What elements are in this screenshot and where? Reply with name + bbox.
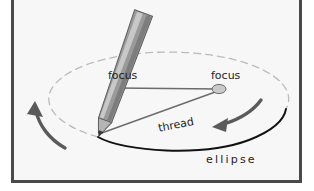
focus-marker-right <box>212 84 226 93</box>
rotation-arrow-right-shaft <box>224 100 261 124</box>
thread-segment-focus-to-focus <box>116 88 219 89</box>
rotation-arrow-right <box>212 100 261 132</box>
screenshot-root: focus focus thread ellipse <box>0 0 314 191</box>
figure-frame: focus focus thread ellipse <box>11 0 302 183</box>
focus-label-right: focus <box>211 69 240 82</box>
ellipse-label: ellipse <box>206 153 257 166</box>
focus-label-left: focus <box>108 69 137 82</box>
rotation-arrow-left <box>27 101 65 148</box>
rotation-arrow-left-head <box>27 101 43 117</box>
figure-inner: focus focus thread ellipse <box>14 0 299 180</box>
pencil-highlight-stripe <box>99 12 143 119</box>
rotation-arrow-right-head <box>212 118 228 132</box>
rotation-arrow-left-shaft <box>36 111 65 148</box>
